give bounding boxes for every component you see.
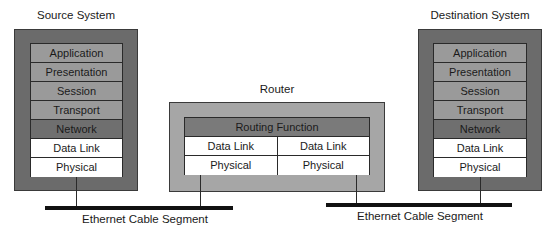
destination-osi-stack: Application Presentation Session Transpo… (433, 43, 527, 177)
router-left-connector-line (200, 175, 201, 207)
layer-presentation: Presentation (31, 63, 122, 82)
layer-data-link: Data Link (31, 139, 122, 158)
destination-connector-line (480, 177, 481, 203)
router-title: Router (169, 83, 385, 95)
layer-session: Session (31, 82, 122, 101)
layer-physical: Physical (434, 158, 526, 177)
layer-network: Network (434, 120, 526, 139)
source-connector-line (76, 177, 77, 207)
cable-label-2: Ethernet Cable Segment (335, 210, 505, 222)
source-system-title: Source System (8, 9, 144, 21)
routing-function: Routing Function (185, 118, 369, 136)
layer-network: Network (31, 120, 122, 139)
layer-application: Application (434, 44, 526, 63)
router-right-connector-line (356, 175, 357, 203)
destination-system-title: Destination System (410, 9, 550, 21)
router-right-physical: Physical (277, 156, 370, 175)
layer-session: Session (434, 82, 526, 101)
layer-physical: Physical (31, 158, 122, 177)
layer-application: Application (31, 44, 122, 63)
router-left-physical: Physical (185, 156, 277, 175)
router-left-data-link: Data Link (185, 137, 277, 155)
layer-transport: Transport (31, 101, 122, 120)
router-stack: Routing Function Data Link Data Link Phy… (184, 117, 370, 175)
router-data-link-row: Data Link Data Link (185, 137, 369, 156)
router-physical-row: Physical Physical (185, 156, 369, 175)
source-osi-stack: Application Presentation Session Transpo… (30, 43, 123, 177)
routing-function-row: Routing Function (185, 118, 369, 137)
layer-transport: Transport (434, 101, 526, 120)
cable-label-1: Ethernet Cable Segment (60, 213, 230, 225)
layer-presentation: Presentation (434, 63, 526, 82)
ethernet-cable-segment-2 (326, 203, 512, 207)
ethernet-cable-segment-1 (45, 206, 233, 210)
layer-data-link: Data Link (434, 139, 526, 158)
router-right-data-link: Data Link (277, 137, 370, 155)
